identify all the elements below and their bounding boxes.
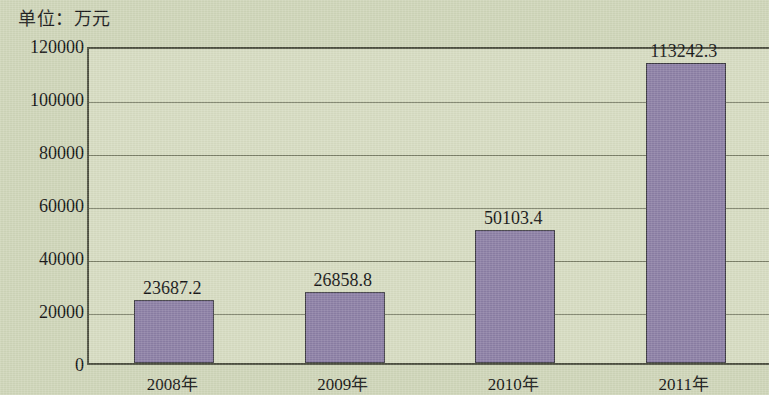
bar <box>475 230 555 363</box>
bar <box>646 63 726 363</box>
plot-area <box>87 47 769 365</box>
x-tick-label: 2008年 <box>147 370 198 395</box>
y-tick-label: 0 <box>0 355 84 376</box>
y-tick-label: 80000 <box>0 143 84 164</box>
bar-value-label: 26858.8 <box>314 270 373 291</box>
y-tick-label: 100000 <box>0 90 84 111</box>
x-tick-label: 2009年 <box>317 370 368 395</box>
y-tick-label: 20000 <box>0 302 84 323</box>
y-tick-label: 120000 <box>0 37 84 58</box>
x-tick-label: 2010年 <box>488 370 539 395</box>
y-tick-label: 40000 <box>0 249 84 270</box>
bar-value-label: 23687.2 <box>143 278 202 299</box>
y-tick-label: 60000 <box>0 196 84 217</box>
bar-value-label: 113242.3 <box>650 41 717 62</box>
y-axis: 020000400006000080000100000120000 <box>0 0 84 395</box>
bar-value-label: 50103.4 <box>484 208 543 229</box>
x-tick-label: 2011年 <box>659 370 709 395</box>
bar <box>134 300 214 363</box>
bar <box>305 292 385 363</box>
chart-figure: 单位：万元 020000400006000080000100000120000 … <box>0 0 769 395</box>
